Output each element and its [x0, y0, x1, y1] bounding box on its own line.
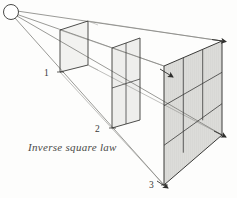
arrow-panel3-top-right: [212, 40, 226, 42]
figure-caption: Inverse square law: [28, 141, 117, 153]
panel-1-depth-edges: [88, 21, 98, 70]
connector-top-far: [88, 21, 222, 41]
distance-label-3: 3: [149, 181, 154, 191]
distance-label-1: 1: [44, 69, 49, 79]
inverse-square-law-figure: 1 2 3 Inverse square law: [0, 0, 237, 198]
ray-bottom-near: [15, 18, 164, 185]
panel-1-edge-b: [88, 65, 98, 70]
point-light-source-icon: [4, 5, 19, 20]
distance-label-2: 2: [95, 125, 100, 135]
diagram-canvas: [0, 0, 237, 198]
light-source-group: [4, 5, 19, 20]
